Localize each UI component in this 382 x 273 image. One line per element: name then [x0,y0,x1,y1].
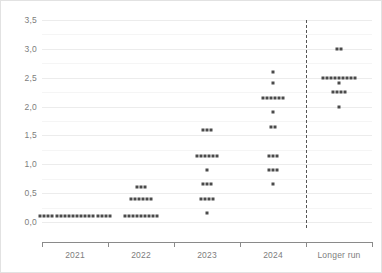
data-point-marker [135,186,138,189]
data-point-marker [108,215,111,218]
data-point-marker [276,169,279,172]
data-point-marker [80,215,83,218]
data-point-marker [137,197,140,200]
data-point-marker [55,215,58,218]
data-point-marker [265,96,268,99]
data-point-marker [346,76,349,79]
x-axis-tick [108,242,109,247]
data-point-marker [206,128,209,131]
data-point-marker [338,82,341,85]
gridline-major [42,49,372,50]
data-point-marker [144,215,147,218]
gridline-major [42,107,372,108]
data-point-marker [135,215,138,218]
x-axis-tick [42,242,43,247]
data-point-marker [321,76,324,79]
gridline-major [42,193,372,194]
data-point-marker [261,96,264,99]
gridline-major [42,164,372,165]
gridline-major [42,222,372,223]
gridline-minor [42,208,372,209]
data-point-marker [51,215,54,218]
data-point-marker [203,154,206,157]
dot-plot-figure: 0,00,51,01,52,02,53,03,5 202120222023202… [0,0,382,273]
y-axis-tick-label: 2,0 [25,102,37,112]
x-axis-line [42,242,372,243]
data-point-marker [67,215,70,218]
data-point-marker [201,128,204,131]
data-point-marker [150,197,153,200]
data-point-marker [131,215,134,218]
gridline-minor [42,179,372,180]
data-point-marker [123,215,126,218]
data-point-marker [146,197,149,200]
data-point-marker [100,215,103,218]
y-axis-tick-label: 0,0 [25,217,37,227]
data-point-marker [340,91,343,94]
y-axis-tick-label: 3,5 [25,15,37,25]
data-point-marker [148,215,151,218]
data-point-marker [212,197,215,200]
data-point-marker [274,96,277,99]
data-point-marker [206,212,209,215]
data-point-marker [350,76,353,79]
data-point-marker [144,186,147,189]
data-point-marker [272,82,275,85]
x-axis-category-label: 2021 [65,250,85,260]
data-point-marker [208,154,211,157]
data-point-marker [88,215,91,218]
data-point-marker [210,183,213,186]
data-point-marker [152,215,155,218]
data-point-marker [140,215,143,218]
y-axis-tick-label: 0,5 [25,188,37,198]
y-axis: 0,00,51,01,52,02,53,03,5 [1,20,37,222]
data-point-marker [212,154,215,157]
x-axis-category-label: Longer run [317,250,360,260]
x-axis-tick [372,242,373,247]
data-point-marker [199,197,202,200]
data-point-marker [267,154,270,157]
data-point-marker [335,47,338,50]
plot-area [42,20,372,222]
data-point-marker [333,76,336,79]
data-point-marker [199,154,202,157]
data-point-marker [278,96,281,99]
data-point-marker [342,76,345,79]
data-point-marker [43,215,46,218]
data-point-marker [272,111,275,114]
data-point-marker [272,183,275,186]
data-point-marker [84,215,87,218]
data-point-marker [156,215,159,218]
data-point-marker [96,215,99,218]
data-point-marker [142,197,145,200]
data-point-marker [338,105,341,108]
data-point-marker [71,215,74,218]
data-point-marker [39,215,42,218]
x-axis-category-label: 2022 [131,250,151,260]
data-point-marker [76,215,79,218]
data-point-marker [338,76,341,79]
y-axis-tick-label: 1,5 [25,130,37,140]
y-axis-tick-label: 3,0 [25,44,37,54]
data-point-marker [269,96,272,99]
data-point-marker [329,76,332,79]
data-point-marker [104,215,107,218]
longer-run-divider [306,20,307,228]
data-point-marker [335,91,338,94]
data-point-marker [272,169,275,172]
data-point-marker [140,186,143,189]
data-point-marker [206,183,209,186]
gridline-major [42,135,372,136]
data-point-marker [282,96,285,99]
data-point-marker [63,215,66,218]
data-point-marker [340,47,343,50]
data-point-marker [276,154,279,157]
data-point-marker [325,76,328,79]
gridline-minor [42,121,372,122]
x-axis-tick [174,242,175,247]
data-point-marker [206,169,209,172]
data-point-marker [59,215,62,218]
data-point-marker [203,197,206,200]
x-axis-category-label: 2023 [197,250,217,260]
x-axis-tick [240,242,241,247]
